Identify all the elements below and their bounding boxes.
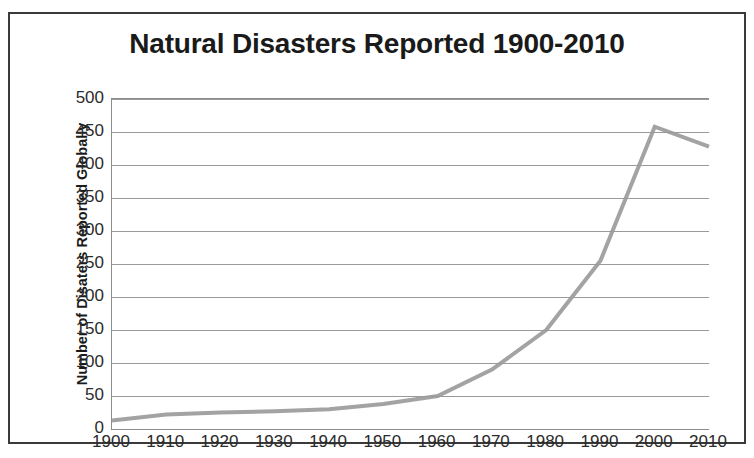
gridline — [112, 363, 709, 364]
y-tick-label: 350 — [60, 187, 104, 207]
y-tick-label: 300 — [60, 220, 104, 240]
chart-frame: Natural Disasters Reported 1900-2010 Num… — [8, 12, 746, 444]
y-tick-label: 200 — [60, 286, 104, 306]
x-tick-label: 1930 — [244, 432, 304, 452]
x-tick-label: 1980 — [515, 432, 575, 452]
y-tick-label: 450 — [60, 121, 104, 141]
gridline — [112, 297, 709, 298]
x-tick-label: 1970 — [461, 432, 521, 452]
x-tick-label: 1910 — [135, 432, 195, 452]
x-tick-label: 1960 — [407, 432, 467, 452]
x-tick-label: 1950 — [352, 432, 412, 452]
gridline — [112, 330, 709, 331]
gridline — [112, 198, 709, 199]
x-tick-label: 1990 — [569, 432, 629, 452]
gridline — [112, 264, 709, 265]
x-tick-label: 2010 — [678, 432, 738, 452]
x-tick-label: 1900 — [81, 432, 141, 452]
plot-area — [111, 98, 709, 430]
chart-screenshot: Natural Disasters Reported 1900-2010 Num… — [0, 0, 754, 458]
gridline — [112, 99, 709, 100]
gridline — [112, 396, 709, 397]
y-tick-label: 100 — [60, 352, 104, 372]
x-tick-label: 1920 — [190, 432, 250, 452]
gridline — [112, 132, 709, 133]
y-tick-label: 150 — [60, 319, 104, 339]
gridline — [112, 231, 709, 232]
y-tick-label: 50 — [60, 385, 104, 405]
y-tick-label: 500 — [60, 88, 104, 108]
x-tick-label: 2000 — [624, 432, 684, 452]
x-axis-tick-labels: 1900191019201930194019501960197019801990… — [111, 432, 708, 458]
x-tick-label: 1940 — [298, 432, 358, 452]
y-axis-tick-labels: 050100150200250300350400450500 — [50, 14, 104, 458]
gridline — [112, 165, 709, 166]
chart-title: Natural Disasters Reported 1900-2010 — [10, 28, 744, 60]
y-tick-label: 250 — [60, 253, 104, 273]
y-tick-label: 400 — [60, 154, 104, 174]
